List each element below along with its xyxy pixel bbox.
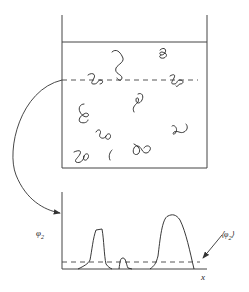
coil: [160, 48, 167, 58]
profile-axes: [62, 192, 207, 269]
x-axis-label: x: [201, 272, 205, 282]
concentration-profile: [78, 215, 194, 269]
diagram-canvas: [0, 0, 249, 292]
coil: [79, 104, 88, 123]
coil: [74, 151, 89, 163]
beaker: [62, 15, 207, 168]
y-axis-label: φ2: [36, 228, 44, 240]
mean-label: ⟨φ2⟩: [221, 230, 234, 241]
coil: [133, 93, 143, 112]
polymer-coils: [74, 48, 187, 162]
mean-arrow: [203, 235, 222, 258]
coil: [172, 124, 187, 134]
coil: [88, 74, 103, 84]
coil: [133, 144, 150, 155]
curved-arrow: [13, 80, 62, 213]
coil: [170, 75, 183, 87]
coil: [112, 50, 123, 80]
coil: [96, 130, 111, 139]
coil: [109, 150, 112, 160]
